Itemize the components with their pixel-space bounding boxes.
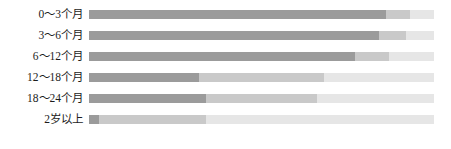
bar-segment (379, 31, 407, 40)
bar-segment (89, 31, 379, 40)
bar-segment (89, 115, 99, 124)
bar-segment (355, 52, 390, 61)
stacked-bar (89, 94, 434, 103)
stacked-bar (89, 52, 434, 61)
chart-row: 2岁以上 (0, 109, 451, 130)
stacked-bar (89, 10, 434, 19)
chart-row: 0～3个月 (0, 4, 451, 25)
bar-segment (410, 10, 434, 19)
bar-segment (89, 52, 355, 61)
bar-segment (206, 94, 316, 103)
chart-row: 6～12个月 (0, 46, 451, 67)
bar-segment (199, 73, 323, 82)
category-label: 3～6个月 (0, 25, 83, 46)
stacked-bar (89, 31, 434, 40)
chart-row: 12～18个月 (0, 67, 451, 88)
bar-segment (406, 31, 434, 40)
bar-segment (389, 52, 434, 61)
chart-rows: 0～3个月3～6个月6～12个月12～18个月18～24个月2岁以上 (0, 0, 451, 149)
chart-row: 18～24个月 (0, 88, 451, 109)
bar-segment (89, 10, 386, 19)
category-label: 2岁以上 (0, 109, 83, 130)
bar-segment (99, 115, 206, 124)
bar-segment (206, 115, 434, 124)
bar-segment (89, 94, 206, 103)
bar-segment (386, 10, 410, 19)
category-label: 12～18个月 (0, 67, 83, 88)
category-label: 18～24个月 (0, 88, 83, 109)
bar-segment (89, 73, 199, 82)
bar-segment (324, 73, 434, 82)
stacked-bar-chart: 0～3个月3～6个月6～12个月12～18个月18～24个月2岁以上 (0, 0, 451, 149)
chart-row: 3～6个月 (0, 25, 451, 46)
stacked-bar (89, 115, 434, 124)
category-label: 6～12个月 (0, 46, 83, 67)
bar-segment (317, 94, 434, 103)
category-label: 0～3个月 (0, 4, 83, 25)
stacked-bar (89, 73, 434, 82)
